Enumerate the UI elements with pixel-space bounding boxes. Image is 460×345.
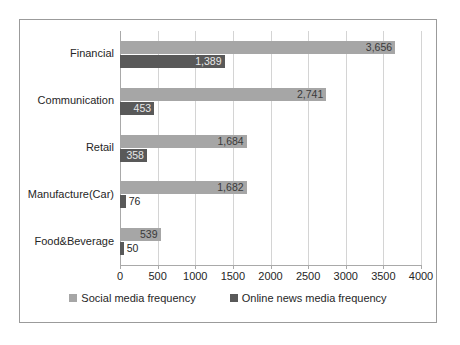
bar-group: 53950 bbox=[120, 228, 421, 255]
category-label-manufacture-car: Manufacture(Car) bbox=[28, 188, 114, 201]
bar-value-label: 1,389 bbox=[120, 55, 225, 68]
x-tick-label-2500: 2500 bbox=[296, 270, 320, 282]
x-tick-2000 bbox=[271, 265, 272, 269]
x-tick-label-500: 500 bbox=[148, 270, 166, 282]
category-label-communication: Communication bbox=[38, 94, 114, 107]
gridline-4000 bbox=[421, 31, 422, 265]
bar-news[interactable] bbox=[120, 242, 124, 255]
bar-value-label: 358 bbox=[120, 149, 147, 162]
x-tick-label-1000: 1000 bbox=[183, 270, 207, 282]
x-tick-label-4000: 4000 bbox=[409, 270, 433, 282]
bar-group: 1,68276 bbox=[120, 181, 421, 208]
bar-value-label: 3,656 bbox=[120, 41, 395, 54]
x-tick-label-3500: 3500 bbox=[371, 270, 395, 282]
legend-swatch-icon bbox=[230, 294, 238, 302]
x-tick-3500 bbox=[383, 265, 384, 269]
x-tick-2500 bbox=[308, 265, 309, 269]
bar-value-label: 76 bbox=[129, 195, 141, 208]
bar-value-label: 453 bbox=[120, 102, 154, 115]
category-label-food-beverage: Food&Beverage bbox=[35, 235, 115, 248]
x-tick-0 bbox=[120, 265, 121, 269]
chart-legend: Social media frequencyOnline news media … bbox=[20, 292, 436, 304]
x-tick-label-0: 0 bbox=[117, 270, 123, 282]
bar-value-label: 1,684 bbox=[120, 135, 247, 148]
x-tick-label-2000: 2000 bbox=[258, 270, 282, 282]
bar-value-label: 539 bbox=[120, 228, 161, 241]
x-tick-4000 bbox=[421, 265, 422, 269]
plot-area: 3,6561,3892,7414531,6843581,6827653950 bbox=[120, 31, 421, 265]
category-axis: FinancialCommunicationRetailManufacture(… bbox=[20, 31, 120, 265]
x-tick-label-3000: 3000 bbox=[334, 270, 358, 282]
legend-label: Social media frequency bbox=[81, 292, 195, 304]
legend-label: Online news media frequency bbox=[242, 292, 387, 304]
x-tick-1500 bbox=[233, 265, 234, 269]
legend-item-social[interactable]: Social media frequency bbox=[69, 292, 195, 304]
bar-group: 3,6561,389 bbox=[120, 41, 421, 68]
category-label-financial: Financial bbox=[70, 47, 114, 60]
legend-swatch-icon bbox=[69, 294, 77, 302]
chart-frame: FinancialCommunicationRetailManufacture(… bbox=[19, 19, 437, 323]
x-tick-3000 bbox=[346, 265, 347, 269]
bar-value-label: 1,682 bbox=[120, 181, 247, 194]
bar-value-label: 2,741 bbox=[120, 88, 326, 101]
legend-item-news[interactable]: Online news media frequency bbox=[230, 292, 387, 304]
bar-group: 1,684358 bbox=[120, 135, 421, 162]
bar-value-label: 50 bbox=[127, 242, 139, 255]
x-tick-label-1500: 1500 bbox=[221, 270, 245, 282]
x-tick-500 bbox=[158, 265, 159, 269]
category-label-retail: Retail bbox=[86, 141, 114, 154]
bar-news[interactable] bbox=[120, 195, 126, 208]
x-tick-1000 bbox=[195, 265, 196, 269]
bar-group: 2,741453 bbox=[120, 88, 421, 115]
